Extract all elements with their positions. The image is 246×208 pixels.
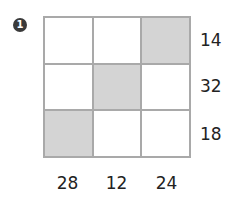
grid-cell-r2c3[interactable]: [141, 64, 190, 111]
col-label-3: 24: [142, 173, 191, 193]
grid-cell-r1c3[interactable]: [141, 17, 190, 64]
grid-cell-r3c1[interactable]: [44, 110, 93, 157]
problem-number-badge: 1: [13, 18, 27, 32]
grid-cell-r2c1[interactable]: [44, 64, 93, 111]
grid-cell-r3c2[interactable]: [93, 110, 142, 157]
grid-cell-r2c2[interactable]: [93, 64, 142, 111]
grid-cell-r1c2[interactable]: [93, 17, 142, 64]
row-label-1: 14: [200, 30, 236, 50]
puzzle-grid: [43, 16, 191, 158]
grid-cell-r3c3[interactable]: [141, 110, 190, 157]
row-label-3: 18: [200, 124, 236, 144]
grid-cell-r1c1[interactable]: [44, 17, 93, 64]
col-label-1: 28: [43, 173, 92, 193]
col-label-2: 12: [92, 173, 141, 193]
row-label-2: 32: [200, 76, 236, 96]
